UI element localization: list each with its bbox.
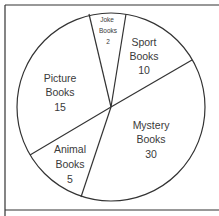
svg-text:Books: Books [129,50,158,62]
svg-text:Books: Books [45,86,74,98]
svg-text:5: 5 [67,173,73,185]
svg-text:Joke: Joke [100,16,114,23]
svg-text:2: 2 [106,38,110,45]
svg-text:Picture: Picture [44,72,77,84]
svg-text:Books: Books [136,133,165,145]
pie-chart: Joke Books 2 Sport Books 10 Mystery Book… [0,0,219,216]
svg-text:Mystery: Mystery [133,119,171,131]
svg-text:30: 30 [145,148,157,160]
svg-text:Sport: Sport [131,36,156,48]
svg-text:15: 15 [54,101,66,113]
svg-text:10: 10 [138,64,150,76]
svg-text:Animal: Animal [54,143,86,155]
svg-text:Books: Books [99,27,118,34]
svg-text:Books: Books [55,158,84,170]
